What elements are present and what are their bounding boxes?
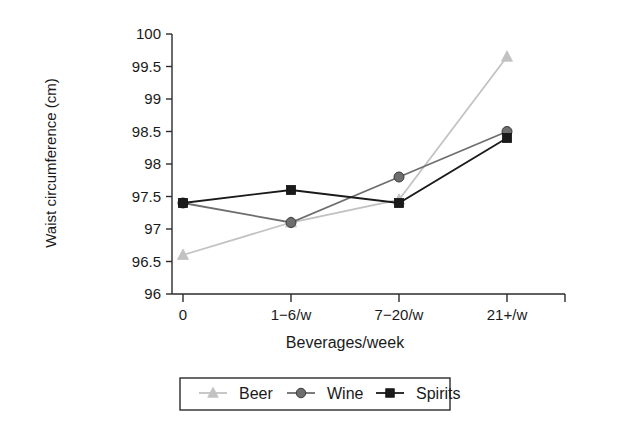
data-point-beer-3: [501, 51, 512, 62]
x-tick-label: 21+/w: [487, 306, 528, 323]
x-tick-label: 0: [179, 306, 187, 323]
legend-marker-spirits: [386, 389, 395, 398]
legend: Beer Wine Spirits: [239, 385, 460, 402]
y-tick-label: 98.5: [132, 123, 161, 140]
legend-label-wine: Wine: [327, 385, 364, 402]
x-tick-label: 1−6/w: [271, 306, 312, 323]
data-point-spirits-2: [395, 199, 404, 208]
y-tick-label: 97: [144, 220, 161, 237]
y-axis-title: Waist circumference (cm): [42, 78, 59, 247]
x-axis-tick-labels: 0 1−6/w 7−20/w 21+/w: [179, 306, 528, 323]
series-beer: [177, 51, 512, 260]
data-point-spirits-1: [287, 186, 296, 195]
x-tick-label: 7−20/w: [375, 306, 424, 323]
y-axis-ticks: [166, 34, 172, 294]
legend-marker-wine: [296, 388, 306, 398]
y-tick-label: 100: [136, 25, 161, 42]
series-spirits: [179, 134, 512, 208]
data-point-wine-1: [286, 218, 296, 228]
y-tick-label: 97.5: [132, 188, 161, 205]
y-axis-tick-labels: 100 99.5 99 98.5 98 97.5 97 96.5 96: [132, 25, 161, 302]
x-axis-title: Beverages/week: [286, 334, 405, 351]
series-line-beer: [183, 57, 507, 255]
series-wine: [178, 127, 512, 228]
legend-label-beer: Beer: [239, 385, 273, 402]
y-tick-label: 96: [144, 285, 161, 302]
series-line-wine: [183, 132, 507, 223]
x-axis-ticks: [183, 294, 565, 302]
data-point-wine-2: [394, 172, 404, 182]
series-line-spirits: [183, 138, 507, 203]
y-tick-label: 98: [144, 155, 161, 172]
y-tick-label: 96.5: [132, 253, 161, 270]
plot-series-group: [177, 51, 512, 260]
data-point-spirits-3: [503, 134, 512, 143]
y-tick-label: 99: [144, 90, 161, 107]
waist-circumference-line-chart: Waist circumference (cm) 100 99.5 99 98.…: [0, 0, 629, 426]
data-point-spirits-0: [179, 199, 188, 208]
legend-box: [180, 378, 450, 410]
y-tick-label: 99.5: [132, 58, 161, 75]
legend-label-spirits: Spirits: [416, 385, 460, 402]
